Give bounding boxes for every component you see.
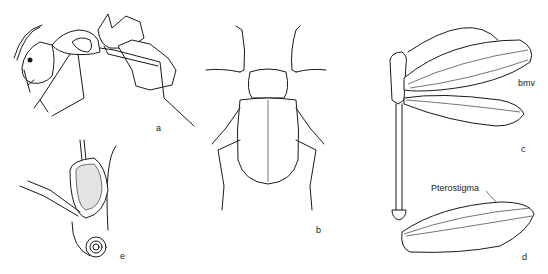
panel-label-a: a [156,124,161,133]
ant-drawing [14,14,194,126]
annotation-bmv: bmv [518,79,535,88]
annotation-pterostigma: Pterostigma [431,184,479,193]
panel-label-c: c [521,145,526,154]
wing-drawing [402,191,534,252]
panel-label-e: e [120,252,125,261]
panel-label-b: b [316,226,321,235]
beetle-drawing [206,26,326,210]
figure-canvas [0,0,548,274]
proboscis-drawing [20,140,116,257]
panel-label-d: d [522,253,527,262]
